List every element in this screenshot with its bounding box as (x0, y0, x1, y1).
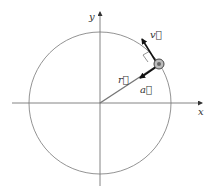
acceleration-vector (140, 67, 156, 78)
circular-motion-diagram: x y r⃗ v⃗ a⃗ (0, 0, 217, 195)
x-axis-label: x (198, 106, 204, 117)
acceleration-label: a⃗ (140, 84, 152, 95)
velocity-label: v⃗ (150, 29, 162, 40)
y-axis-label: y (88, 11, 95, 22)
position-label: r⃗ (118, 74, 129, 85)
right-angle-marker (143, 51, 150, 62)
particle-core (157, 62, 161, 66)
